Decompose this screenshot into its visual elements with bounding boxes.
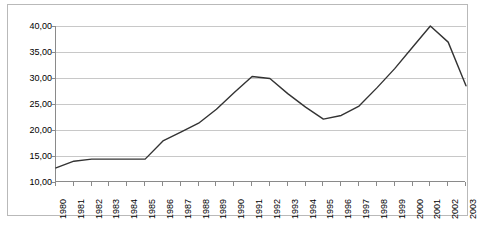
x-tick-label: 1998 — [380, 187, 389, 219]
x-axis: 1980198119821983198419851986198719881989… — [55, 187, 466, 221]
x-tick-label: 1989 — [219, 187, 228, 219]
x-tick-label: 1997 — [362, 187, 371, 219]
x-tick-mark — [305, 182, 306, 186]
x-tick-mark — [108, 182, 109, 186]
x-tick-label: 1995 — [326, 187, 335, 219]
x-tick-mark — [394, 182, 395, 186]
x-tick-mark — [251, 182, 252, 186]
x-tick-label: 1984 — [130, 187, 139, 219]
x-tick-label: 1996 — [344, 187, 353, 219]
x-tick-mark — [412, 182, 413, 186]
x-tick-mark — [269, 182, 270, 186]
x-tick-label: 1983 — [112, 187, 121, 219]
x-tick-mark — [358, 182, 359, 186]
y-tick-label: 30,00 — [8, 74, 52, 83]
x-tick-mark — [322, 182, 323, 186]
x-tick-mark — [340, 182, 341, 186]
x-tick-label: 1988 — [202, 187, 211, 219]
x-tick-label: 1985 — [148, 187, 157, 219]
x-tick-label: 2001 — [433, 187, 442, 219]
x-tick-mark — [55, 182, 56, 186]
x-tick-mark — [91, 182, 92, 186]
x-tick-label: 1991 — [255, 187, 264, 219]
series-line — [56, 26, 466, 168]
x-tick-label: 1990 — [237, 187, 246, 219]
x-tick-mark — [162, 182, 163, 186]
x-tick-label: 1994 — [309, 187, 318, 219]
x-tick-mark — [447, 182, 448, 186]
y-tick-label: 40,00 — [8, 22, 52, 31]
x-tick-mark — [73, 182, 74, 186]
x-tick-mark — [126, 182, 127, 186]
x-tick-mark — [376, 182, 377, 186]
x-tick-label: 2003 — [469, 187, 478, 219]
x-tick-mark — [180, 182, 181, 186]
x-tick-mark — [287, 182, 288, 186]
x-tick-mark — [198, 182, 199, 186]
x-tick-label: 1981 — [77, 187, 86, 219]
y-tick-label: 15,00 — [8, 152, 52, 161]
y-tick-label: 35,00 — [8, 48, 52, 57]
x-tick-mark — [465, 182, 466, 186]
y-tick-label: 20,00 — [8, 126, 52, 135]
x-tick-label: 1987 — [184, 187, 193, 219]
x-tick-mark — [215, 182, 216, 186]
x-tick-label: 1982 — [95, 187, 104, 219]
y-tick-label: 10,00 — [8, 178, 52, 187]
x-tick-label: 1986 — [166, 187, 175, 219]
y-axis: 40,0035,0030,0025,0020,0015,0010,00 — [8, 26, 52, 182]
x-tick-mark — [233, 182, 234, 186]
x-tick-label: 1980 — [59, 187, 68, 219]
line-series — [56, 26, 466, 182]
x-tick-label: 1992 — [273, 187, 282, 219]
x-tick-label: 1993 — [291, 187, 300, 219]
x-tick-label: 2002 — [451, 187, 460, 219]
x-tick-label: 2000 — [416, 187, 425, 219]
x-tick-mark — [429, 182, 430, 186]
plot-area — [55, 26, 465, 182]
x-tick-mark — [144, 182, 145, 186]
x-tick-label: 1999 — [398, 187, 407, 219]
chart-frame: 40,0035,0030,0025,0020,0015,0010,00 1980… — [7, 4, 468, 216]
y-tick-label: 25,00 — [8, 100, 52, 109]
x-axis-ticks — [55, 182, 466, 186]
